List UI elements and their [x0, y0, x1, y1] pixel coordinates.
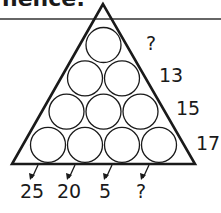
triangle-circles-diagram: nence: ? 13 15 17 25 20 5 ? — [0, 0, 221, 213]
bottom-label-1: 25 — [20, 180, 44, 202]
circle-row3-1 — [49, 94, 84, 129]
right-label-row-1: ? — [146, 32, 156, 54]
bottom-label-4: ? — [136, 180, 146, 202]
circle-row4-1 — [31, 127, 66, 162]
circle-row3-2 — [86, 94, 121, 129]
arrow-group — [29, 165, 149, 180]
circle-row2-1 — [68, 61, 103, 96]
bottom-label-3: 5 — [99, 180, 111, 202]
circle-row1-1 — [86, 28, 121, 63]
header-title-fragment: nence: — [2, 0, 85, 11]
circle-row3-3 — [123, 94, 158, 129]
right-label-row-4: 17 — [196, 132, 220, 154]
circle-row4-2 — [68, 127, 103, 162]
bottom-label-2: 20 — [57, 180, 81, 202]
circle-row4-3 — [105, 127, 140, 162]
circle-row4-4 — [142, 127, 177, 162]
circle-row2-2 — [105, 61, 140, 96]
right-label-row-2: 13 — [159, 64, 183, 86]
right-label-row-3: 15 — [176, 97, 200, 119]
